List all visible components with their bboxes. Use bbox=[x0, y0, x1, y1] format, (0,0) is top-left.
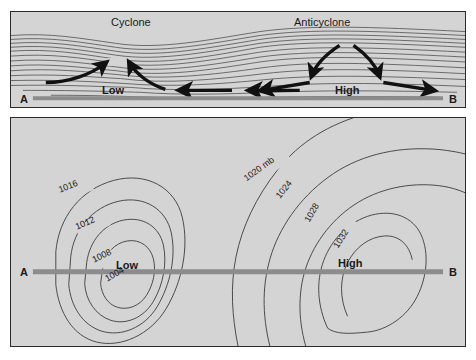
cross-section-high-label: High bbox=[335, 85, 359, 96]
cyclone-title: Cyclone bbox=[111, 17, 151, 28]
map-panel: 1016 1012 1008 1004 1020 mb 1024 1028 10… bbox=[10, 117, 466, 347]
contour-label-masks bbox=[58, 149, 363, 290]
cross-section-endpoint-a: A bbox=[20, 94, 28, 105]
isobar-contours bbox=[56, 118, 465, 346]
cross-section-panel: Cyclone Anticyclone Low High A B bbox=[10, 11, 466, 108]
map-endpoint-b: B bbox=[449, 267, 457, 278]
map-high-center-label: High bbox=[338, 258, 362, 269]
cross-section-drawing bbox=[11, 12, 465, 107]
anticyclone-title: Anticyclone bbox=[294, 17, 350, 28]
cyclone-anticyclone-figure: Cyclone Anticyclone Low High A B bbox=[0, 0, 476, 360]
cross-section-low-label: Low bbox=[102, 85, 124, 96]
cyclone-core-gap bbox=[108, 58, 130, 66]
isobar-1032-inner bbox=[342, 236, 413, 316]
isobar-map-drawing bbox=[11, 118, 465, 346]
map-endpoint-a: A bbox=[20, 267, 28, 278]
map-low-center-label: Low bbox=[116, 260, 138, 271]
isobaric-surfaces bbox=[11, 27, 465, 98]
cross-section-endpoint-b: B bbox=[449, 94, 457, 105]
